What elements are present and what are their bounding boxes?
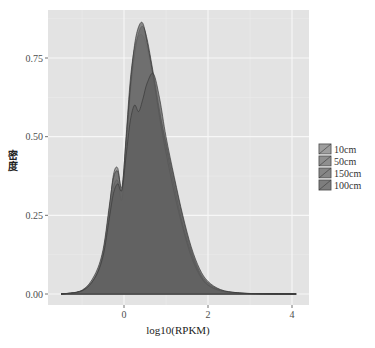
y-tick-label: 0.00 bbox=[26, 289, 44, 300]
x-axis: 024 bbox=[122, 305, 295, 320]
legend: 10cm50cm150cm100cm bbox=[318, 143, 361, 191]
density-chart: 024 0.000.250.500.75 log10(RPKM) 10cm50c… bbox=[0, 0, 375, 348]
y-axis-title: 密度 bbox=[8, 150, 22, 172]
y-axis: 0.000.250.500.75 bbox=[26, 53, 49, 300]
x-tick-label: 4 bbox=[290, 309, 295, 320]
y-tick-label: 0.25 bbox=[26, 210, 44, 221]
legend-label: 50cm bbox=[334, 156, 356, 167]
y-tick-label: 0.50 bbox=[26, 131, 44, 142]
y-tick-label: 0.75 bbox=[26, 53, 44, 64]
x-tick-label: 2 bbox=[206, 309, 211, 320]
legend-label: 150cm bbox=[334, 168, 361, 179]
legend-label: 10cm bbox=[334, 144, 356, 155]
x-axis-title: log10(RPKM) bbox=[146, 324, 210, 337]
x-tick-label: 0 bbox=[122, 309, 127, 320]
legend-label: 100cm bbox=[334, 180, 361, 191]
